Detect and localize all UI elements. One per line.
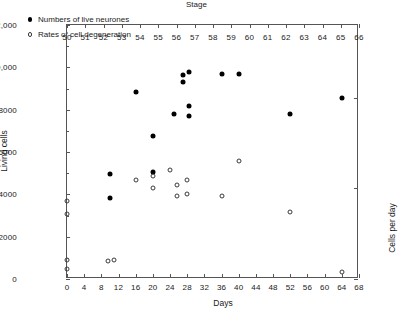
top-tick-label: 60: [245, 33, 254, 42]
right-tick: [354, 279, 358, 280]
x-tick-label: 0: [65, 283, 70, 292]
top-tick: [304, 24, 305, 28]
top-tick: [231, 24, 232, 28]
top-tick-label: 55: [154, 33, 163, 42]
top-tick-label: 57: [190, 33, 199, 42]
y-tick: [66, 237, 70, 238]
x-tick-label: 68: [354, 283, 363, 292]
top-tick: [122, 24, 123, 28]
plot-frame: 0481216202428323640444852566064685051525…: [66, 24, 358, 278]
data-point-cell-degeneration: [133, 178, 138, 183]
data-point-live-neurones: [150, 134, 155, 139]
y-minor-tick: [66, 173, 69, 174]
y-tick: [66, 25, 70, 26]
x-tick-label: 20: [148, 283, 157, 292]
y-minor-tick: [66, 131, 69, 132]
data-point-cell-degeneration: [168, 168, 173, 173]
data-point-live-neurones: [107, 195, 112, 200]
x-tick: [170, 274, 171, 278]
top-tick: [323, 24, 324, 28]
top-tick: [104, 24, 105, 28]
x-tick-label: 52: [286, 283, 295, 292]
x-tick-label: 44: [251, 283, 260, 292]
y-minor-tick: [66, 258, 69, 259]
top-tick-label: 62: [281, 33, 290, 42]
open-circle-icon: [22, 32, 38, 37]
y-tick-label: 8000: [0, 105, 17, 114]
x-tick: [222, 274, 223, 278]
top-tick-label: 66: [354, 33, 363, 42]
x-tick: [84, 274, 85, 278]
top-tick-label: 53: [117, 33, 126, 42]
data-point-live-neurones: [339, 96, 344, 101]
top-tick: [140, 24, 141, 28]
data-point-cell-degeneration: [174, 182, 179, 187]
data-point-live-neurones: [219, 71, 224, 76]
data-point-cell-degeneration: [150, 173, 155, 178]
data-point-live-neurones: [172, 111, 177, 116]
x-tick: [273, 274, 274, 278]
x-tick-label: 8: [99, 283, 104, 292]
top-tick: [341, 24, 342, 28]
y-tick-label: 12,000: [0, 21, 17, 30]
y-tick-label: 10,000: [0, 63, 17, 72]
top-tick: [177, 24, 178, 28]
x-tick-label: 36: [217, 283, 226, 292]
right-tick: [354, 98, 358, 99]
y-minor-tick: [66, 89, 69, 90]
y-tick: [66, 67, 70, 68]
y-tick: [66, 152, 70, 153]
data-point-cell-degeneration: [288, 209, 293, 214]
x-tick-label: 48: [268, 283, 277, 292]
x-tick-label: 16: [131, 283, 140, 292]
data-point-cell-degeneration: [150, 186, 155, 191]
x-tick: [101, 274, 102, 278]
x-tick-label: 4: [82, 283, 87, 292]
x-tick: [359, 274, 360, 278]
legend-label-live-neurones: Numbers of live neurones: [38, 15, 129, 24]
x-tick-label: 28: [183, 283, 192, 292]
top-tick-label: 63: [300, 33, 309, 42]
data-point-live-neurones: [187, 104, 192, 109]
data-point-cell-degeneration: [65, 267, 70, 272]
data-point-live-neurones: [107, 172, 112, 177]
x-tick: [187, 274, 188, 278]
filled-circle-icon: [22, 17, 38, 22]
data-point-cell-degeneration: [236, 159, 241, 164]
data-point-live-neurones: [187, 114, 192, 119]
data-point-live-neurones: [288, 111, 293, 116]
x-tick: [239, 274, 240, 278]
top-tick-label: 52: [99, 33, 108, 42]
data-point-cell-degeneration: [174, 194, 179, 199]
top-tick-label: 56: [172, 33, 181, 42]
data-point-cell-degeneration: [219, 194, 224, 199]
x-tick: [67, 274, 68, 278]
top-tick-label: 54: [135, 33, 144, 42]
top-tick-label: 51: [81, 33, 90, 42]
y-tick: [66, 110, 70, 111]
x-tick-label: 60: [320, 283, 329, 292]
x-tick: [256, 274, 257, 278]
data-point-cell-degeneration: [105, 258, 110, 263]
top-tick: [195, 24, 196, 28]
top-tick-label: 58: [208, 33, 217, 42]
data-point-cell-degeneration: [185, 178, 190, 183]
top-axis-title: Stage: [186, 0, 207, 9]
top-tick: [213, 24, 214, 28]
x-axis-title: Days: [0, 298, 400, 308]
x-tick: [307, 274, 308, 278]
x-tick-label: 12: [114, 283, 123, 292]
top-tick-label: 64: [318, 33, 327, 42]
y-tick: [66, 194, 70, 195]
y-tick-label: 0: [12, 275, 17, 284]
x-tick-label: 32: [200, 283, 209, 292]
x-tick-label: 64: [337, 283, 346, 292]
right-tick: [354, 188, 358, 189]
plot-area: [67, 25, 357, 277]
top-tick: [85, 24, 86, 28]
top-tick: [359, 24, 360, 28]
x-tick: [290, 274, 291, 278]
data-point-live-neurones: [133, 89, 138, 94]
y-tick-label: 6000: [0, 148, 17, 157]
data-point-cell-degeneration: [65, 198, 70, 203]
